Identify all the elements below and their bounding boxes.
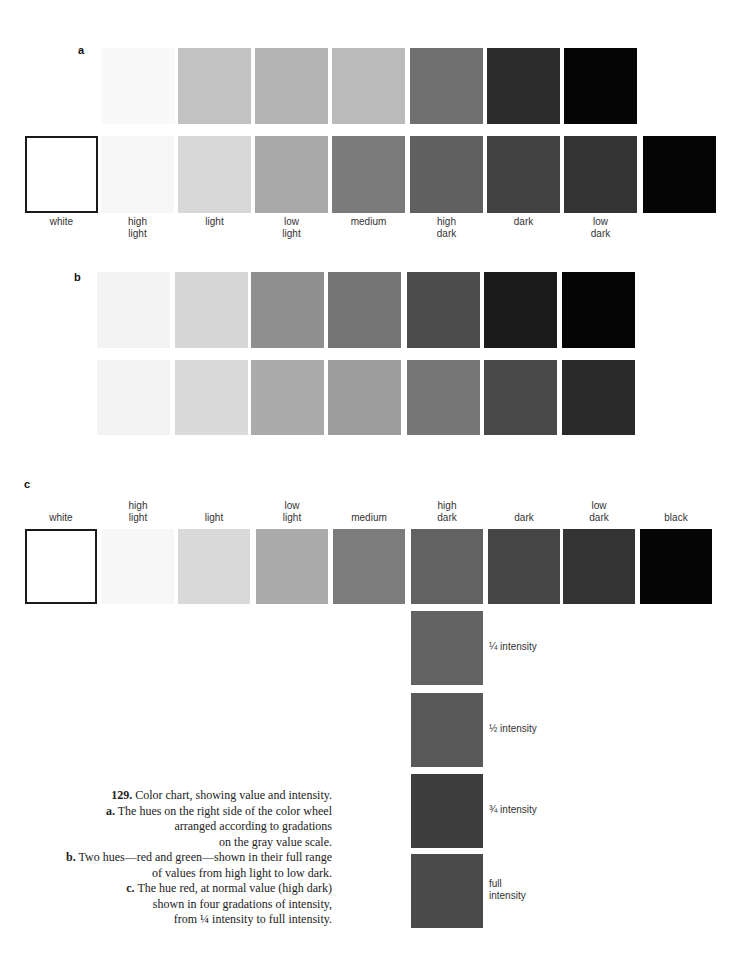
label-a-light: light <box>178 216 251 228</box>
caption-a-line-3: on the gray value scale. <box>0 835 332 851</box>
label-c-quarter-intensity: ¼ intensity <box>489 641 537 653</box>
swatch-b-green-7 <box>562 360 635 435</box>
caption-c-line-2: shown in four gradations of intensity, <box>0 897 332 913</box>
swatch-b-red-6 <box>484 272 557 348</box>
swatch-b-green-4 <box>328 360 401 435</box>
swatch-a-black <box>643 136 716 213</box>
swatch-a-high-light <box>101 136 174 213</box>
swatch-b-red-5 <box>407 272 480 348</box>
caption-b-line-2: of values from high light to low dark. <box>0 866 332 882</box>
swatch-b-green-6 <box>484 360 557 435</box>
swatch-a-light <box>178 136 251 213</box>
swatch-c-dark <box>488 529 560 604</box>
panel-b-label: b <box>74 271 81 283</box>
swatch-a-dark <box>487 136 560 213</box>
swatch-c-full-intensity <box>411 854 483 928</box>
swatch-c-half-intensity <box>411 693 483 767</box>
caption-a-line-2: arranged according to gradations <box>0 819 332 835</box>
caption-c-text-1: The hue red, at normal value (high dark) <box>137 881 332 895</box>
swatch-c-high-dark <box>411 529 483 604</box>
caption-c-line-3: from ¼ intensity to full intensity. <box>0 912 332 928</box>
caption-number: 129. <box>111 788 132 802</box>
swatch-c-black <box>640 529 712 604</box>
label-a-high-light: high light <box>101 216 174 240</box>
swatch-b-green-1 <box>97 360 170 435</box>
swatch-c-quarter-intensity <box>411 611 483 685</box>
caption-a-key: a. <box>106 804 115 818</box>
swatch-b-red-4 <box>328 272 401 348</box>
label-c-medium: medium <box>333 512 405 524</box>
swatch-b-green-2 <box>175 360 248 435</box>
swatch-b-red-1 <box>97 272 170 348</box>
caption-b-text-1: Two hues—red and green—shown in their fu… <box>79 850 332 864</box>
swatch-b-red-3 <box>251 272 324 348</box>
label-c-low-light: low light <box>256 500 328 524</box>
caption-b-key: b. <box>66 850 76 864</box>
swatch-a-low-light <box>255 136 328 213</box>
figure-caption: 129. Color chart, showing value and inte… <box>0 788 332 928</box>
label-c-full-intensity: full intensity <box>489 878 526 902</box>
swatch-a-top-1 <box>102 48 175 124</box>
swatch-b-red-2 <box>175 272 248 348</box>
swatch-a-top-4 <box>332 48 405 124</box>
swatch-c-high-light <box>102 529 174 604</box>
label-c-white: white <box>25 512 97 524</box>
label-c-three-quarter-intensity: ¾ intensity <box>489 804 537 816</box>
swatch-a-white <box>25 136 98 213</box>
label-a-low-dark: low dark <box>564 216 637 240</box>
caption-a-line-1: a. The hues on the right side of the col… <box>0 804 332 820</box>
swatch-b-red-7 <box>562 272 635 348</box>
label-a-medium: medium <box>332 216 405 228</box>
swatch-c-three-quarter-intensity <box>411 774 483 848</box>
label-c-light: light <box>178 512 250 524</box>
swatch-c-low-dark <box>563 529 635 604</box>
swatch-a-top-5 <box>410 48 483 124</box>
caption-c-key: c. <box>126 881 134 895</box>
label-c-dark: dark <box>488 512 560 524</box>
label-a-dark: dark <box>487 216 560 228</box>
label-c-high-light: high light <box>102 500 174 524</box>
swatch-a-high-dark <box>410 136 483 213</box>
swatch-a-top-7 <box>564 48 637 124</box>
swatch-a-low-dark <box>564 136 637 213</box>
swatch-c-low-light <box>256 529 328 604</box>
label-c-half-intensity: ½ intensity <box>489 723 537 735</box>
label-a-white: white <box>25 216 98 228</box>
swatch-c-medium <box>333 529 405 604</box>
label-c-black: black <box>640 512 712 524</box>
swatch-c-white <box>25 529 97 604</box>
panel-c-label: c <box>24 478 30 490</box>
label-a-high-dark: high dark <box>410 216 483 240</box>
swatch-b-green-3 <box>251 360 324 435</box>
label-c-high-dark: high dark <box>411 500 483 524</box>
swatch-a-top-6 <box>487 48 560 124</box>
caption-b-line-1: b. Two hues—red and green—shown in their… <box>0 850 332 866</box>
label-c-low-dark: low dark <box>563 500 635 524</box>
caption-c-line-1: c. The hue red, at normal value (high da… <box>0 881 332 897</box>
panel-a-label: a <box>78 44 84 56</box>
caption-a-text-1: The hues on the right side of the color … <box>118 804 332 818</box>
swatch-c-light <box>178 529 250 604</box>
swatch-a-top-2 <box>178 48 251 124</box>
label-a-low-light: low light <box>255 216 328 240</box>
swatch-a-top-3 <box>255 48 328 124</box>
swatch-a-medium <box>332 136 405 213</box>
caption-title: Color chart, showing value and intensity… <box>132 788 332 802</box>
swatch-b-green-5 <box>407 360 480 435</box>
caption-title-line: 129. Color chart, showing value and inte… <box>0 788 332 804</box>
